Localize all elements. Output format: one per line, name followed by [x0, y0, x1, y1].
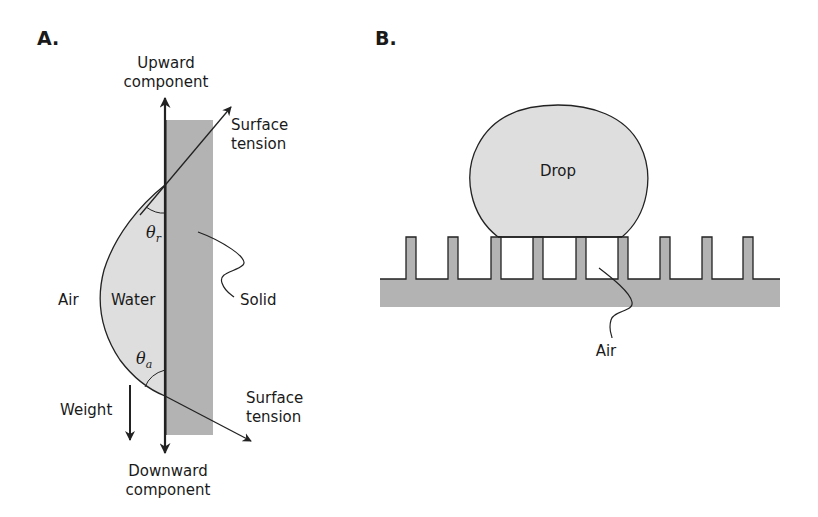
pillar [533, 237, 543, 280]
air-label-b: Air [596, 342, 617, 360]
downward-label-line2: component [126, 481, 211, 499]
drop-label: Drop [540, 162, 576, 180]
substrate-base [380, 279, 780, 307]
upward-label-line1: Upward [137, 54, 194, 72]
wetting-diagram: A. Upward component Surface tension θr S… [0, 0, 818, 517]
panel-b-label: B. [375, 27, 397, 49]
pillar [660, 237, 670, 280]
upward-label-line2: component [124, 73, 209, 91]
surface-tension-bottom-line2: tension [246, 408, 301, 426]
pillar [702, 237, 712, 280]
panel-a: A. Upward component Surface tension θr S… [37, 27, 303, 499]
panel-a-label: A. [37, 27, 59, 49]
downward-label-line1: Downward [128, 462, 207, 480]
surface-tension-bottom-line1: Surface [246, 389, 303, 407]
air-label: Air [58, 291, 79, 309]
pillar [743, 237, 753, 280]
solid-wall [166, 120, 213, 435]
water-label: Water [111, 291, 156, 309]
pillar [491, 237, 501, 280]
pillar [576, 237, 586, 280]
surface-tension-top-line2: tension [231, 135, 286, 153]
pillar [406, 237, 416, 280]
weight-label: Weight [60, 401, 112, 419]
solid-label: Solid [240, 291, 277, 309]
pillar [448, 237, 458, 280]
panel-b: B. Drop Air [375, 27, 780, 360]
surface-tension-top-line1: Surface [231, 116, 288, 134]
pillar [618, 237, 628, 280]
